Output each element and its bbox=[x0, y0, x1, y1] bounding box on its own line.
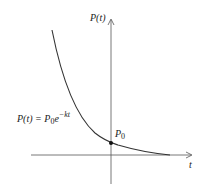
equation-lhs: P(t) = P bbox=[17, 113, 50, 124]
equation-exponent: −kt bbox=[59, 110, 70, 119]
decay-graph bbox=[0, 0, 204, 193]
y-axis-label: P(t) bbox=[90, 12, 106, 23]
p0-point bbox=[109, 141, 113, 145]
p0-sub: 0 bbox=[121, 132, 125, 141]
x-axis-label: t bbox=[189, 159, 192, 170]
p0-label: P0 bbox=[115, 128, 125, 141]
equation-label: P(t) = P0e−kt bbox=[17, 110, 70, 126]
